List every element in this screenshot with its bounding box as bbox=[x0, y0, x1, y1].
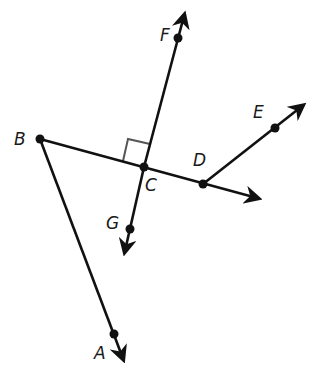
diagram-svg bbox=[0, 0, 319, 375]
ray-ba bbox=[40, 139, 124, 360]
point-e bbox=[271, 124, 280, 133]
point-g bbox=[126, 225, 135, 234]
geometry-diagram: B C D E F G A bbox=[0, 0, 319, 375]
label-e: E bbox=[253, 104, 264, 121]
label-b: B bbox=[14, 131, 26, 148]
point-d bbox=[199, 180, 208, 189]
point-a bbox=[110, 330, 119, 339]
label-g: G bbox=[106, 215, 119, 232]
point-b bbox=[36, 135, 45, 144]
label-c: C bbox=[145, 177, 157, 194]
label-d: D bbox=[193, 152, 206, 169]
point-f bbox=[174, 34, 183, 43]
label-f: F bbox=[160, 27, 170, 44]
point-c bbox=[140, 163, 149, 172]
label-a: A bbox=[94, 345, 106, 362]
ray-cg bbox=[125, 167, 145, 253]
